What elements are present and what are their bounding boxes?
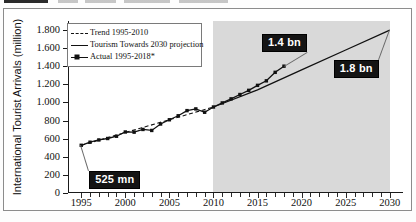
y-axis-title-text: International Tourist Arrivals (million)	[11, 19, 23, 195]
y-tick-label: 800	[44, 115, 60, 126]
x-tick-label: 2005	[159, 198, 180, 209]
series-marker	[141, 128, 144, 131]
legend-item-actual: Actual 1995-2018*	[71, 51, 197, 63]
chart-page: International Tourist Arrivals (million)…	[0, 0, 416, 222]
series-marker	[221, 101, 224, 104]
series-line	[81, 66, 284, 145]
clipped-text-block	[4, 0, 48, 3]
x-tick-minor	[231, 193, 232, 197]
y-tick-label: 600	[44, 133, 60, 144]
series-marker	[229, 97, 232, 100]
x-tick-minor	[108, 193, 109, 197]
series-marker	[124, 130, 127, 133]
x-tick-label: 2010	[203, 198, 224, 209]
y-axis-title: International Tourist Arrivals (million)	[9, 21, 25, 193]
series-marker	[238, 93, 241, 96]
x-tick-minor	[152, 193, 153, 197]
x-tick-label: 2000	[115, 198, 136, 209]
x-tick-minor	[187, 193, 188, 197]
y-tick-label: 1.200	[36, 79, 60, 90]
value-callout: 525 mn	[89, 171, 140, 189]
series-marker	[159, 122, 162, 125]
x-tick-minor	[196, 193, 197, 197]
x-tick-label: 1995	[71, 198, 92, 209]
x-tick-minor	[319, 193, 320, 197]
clipped-text-strip	[0, 0, 416, 7]
value-callout: 1.4 bn	[262, 34, 307, 52]
x-tick-minor	[99, 193, 100, 197]
series-marker	[88, 141, 91, 144]
y-tick-label: 1.800	[36, 25, 60, 36]
series-marker	[150, 129, 153, 132]
series-marker	[176, 114, 179, 117]
series-marker	[115, 135, 118, 138]
series-marker	[247, 89, 250, 92]
series-marker	[203, 111, 206, 114]
series-marker	[256, 84, 259, 87]
clipped-text-line	[58, 0, 228, 3]
figure-frame: International Tourist Arrivals (million)…	[3, 8, 412, 211]
x-tick-label: 2030	[379, 198, 400, 209]
x-tick-minor	[275, 193, 276, 197]
series-marker	[194, 107, 197, 110]
legend-item-label: Actual 1995-2018*	[90, 53, 155, 61]
x-tick-minor	[363, 193, 364, 197]
legend-item-projection: Tourism Towards 2030 projection	[71, 39, 197, 51]
value-callout: 1.8 bn	[334, 60, 379, 78]
y-tick-label: 200	[44, 170, 60, 181]
x-tick-label: 2020	[291, 198, 312, 209]
series-marker	[132, 130, 135, 133]
series-marker	[106, 137, 109, 140]
line-with-marker-icon	[71, 52, 88, 62]
legend-item-trend: Trend 1995-2010	[71, 27, 197, 39]
y-tick-label: 1.000	[36, 97, 60, 108]
series-marker	[273, 71, 276, 74]
x-tick-minor	[240, 193, 241, 197]
series-marker	[97, 138, 100, 141]
series-marker	[168, 118, 171, 121]
y-tick-label: 400	[44, 152, 60, 163]
solid-line-icon	[71, 40, 88, 50]
y-tick-label: 0	[55, 188, 60, 199]
x-tick-minor	[328, 193, 329, 197]
series-marker	[212, 105, 215, 108]
x-tick-minor	[372, 193, 373, 197]
y-tick-label: 1.400	[36, 61, 60, 72]
series-marker	[185, 109, 188, 112]
x-tick-label: 2025	[335, 198, 356, 209]
x-tick-minor	[143, 193, 144, 197]
legend-item-label: Tourism Towards 2030 projection	[90, 41, 203, 49]
x-tick-minor	[284, 193, 285, 197]
x-tick-label: 2015	[247, 198, 268, 209]
legend-item-label: Trend 1995-2010	[90, 29, 148, 37]
dashed-line-icon	[71, 28, 88, 38]
y-tick	[63, 193, 68, 194]
legend: Trend 1995-2010 Tourism Towards 2030 pro…	[67, 23, 202, 67]
series-marker	[265, 79, 268, 82]
y-tick-label: 1.600	[36, 43, 60, 54]
